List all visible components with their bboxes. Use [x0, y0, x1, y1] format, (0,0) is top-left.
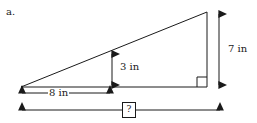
triangle-outline [21, 12, 207, 87]
dimension-label-height-inner: 3 in [120, 62, 139, 72]
dimension-label-base-inner: 8 in [48, 88, 69, 98]
unknown-value-label: ? [123, 105, 135, 114]
dimension-label-height-full: 7 in [228, 44, 247, 54]
triangle-hypotenuse [21, 12, 207, 87]
unknown-value-box: ? [122, 102, 136, 118]
right-angle-marker [197, 77, 207, 87]
part-label: a. [6, 7, 15, 17]
geometry-figure: a. 7 in 3 in 8 in ? [0, 0, 257, 123]
